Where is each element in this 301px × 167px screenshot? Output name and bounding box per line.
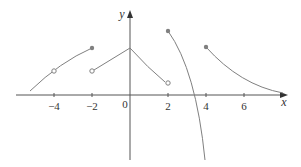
tick-label: 6: [241, 100, 247, 112]
open-point: [166, 81, 170, 85]
curve-piece-3: [130, 48, 165, 82]
tick-label: 4: [203, 100, 209, 112]
tick-label: 0: [122, 98, 128, 110]
tick-label: −4: [48, 100, 60, 112]
curve-piece-2: [94, 48, 130, 70]
open-point: [52, 69, 56, 73]
curve-piece-1: [30, 48, 92, 91]
y-axis-arrow-icon: [127, 10, 133, 18]
piecewise-function-graph: −4 −2 0 2 4 6 x y: [0, 0, 301, 167]
open-point: [90, 69, 94, 73]
closed-point: [166, 29, 170, 33]
tick-label: −2: [86, 100, 98, 112]
x-axis-label: x: [280, 95, 287, 109]
closed-point: [204, 45, 208, 49]
curve-piece-5: [206, 47, 283, 93]
tick-label: 2: [165, 100, 171, 112]
y-axis-label: y: [118, 7, 125, 21]
closed-point: [90, 46, 94, 50]
